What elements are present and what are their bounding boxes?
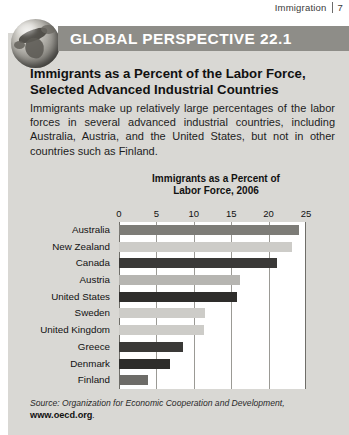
x-axis-tick-labels: 0510152025 bbox=[119, 208, 317, 222]
x-tick-5: 5 bbox=[154, 208, 159, 219]
bar-finland bbox=[119, 375, 148, 385]
chart-title-line2: Labor Force, 2006 bbox=[116, 185, 316, 197]
bar-row bbox=[119, 239, 306, 256]
bar-row bbox=[119, 322, 306, 339]
bar-row bbox=[119, 222, 306, 239]
running-head-page-number: 7 bbox=[338, 2, 343, 13]
x-tick-10: 10 bbox=[189, 208, 200, 219]
bar-new-zealand bbox=[119, 242, 292, 252]
source-note: Source: Organization for Economic Cooper… bbox=[30, 398, 340, 421]
category-label-new-zealand: New Zealand bbox=[8, 239, 115, 256]
running-head-divider bbox=[332, 2, 333, 13]
bar-greece bbox=[119, 342, 183, 352]
category-label-australia: Australia bbox=[8, 222, 115, 239]
banner-bar: GLOBAL PERSPECTIVE 22.1 bbox=[58, 26, 349, 51]
x-tick-25: 25 bbox=[301, 208, 312, 219]
category-label-sweden: Sweden bbox=[8, 305, 115, 322]
bar-chart: 0510152025 AustraliaNew ZealandCanadaAus… bbox=[119, 208, 317, 389]
banner-title: GLOBAL PERSPECTIVE 22.1 bbox=[58, 30, 292, 48]
category-label-greece: Greece bbox=[8, 339, 115, 356]
bar-united-kingdom bbox=[119, 325, 204, 335]
bar-row bbox=[119, 372, 306, 389]
page-title: Immigrants as a Percent of the Labor For… bbox=[30, 66, 335, 97]
bar-denmark bbox=[119, 359, 170, 369]
bar-row bbox=[119, 289, 306, 306]
running-head-title: Immigration bbox=[275, 2, 327, 13]
x-tick-0: 0 bbox=[116, 208, 121, 219]
bar-united-states bbox=[119, 292, 237, 302]
bar-row bbox=[119, 356, 306, 373]
globe-icon bbox=[11, 19, 60, 68]
bar-row bbox=[119, 305, 306, 322]
x-tick-20: 20 bbox=[263, 208, 274, 219]
category-label-austria: Austria bbox=[8, 272, 115, 289]
source-url-suffix: . bbox=[92, 410, 94, 420]
bar-row bbox=[119, 272, 306, 289]
bar-series bbox=[119, 222, 306, 389]
bar-australia bbox=[119, 225, 299, 235]
source-url[interactable]: www.oecd.org bbox=[30, 410, 92, 420]
chart-title-line1: Immigrants as a Percent of bbox=[116, 173, 316, 185]
global-perspective-panel: GLOBAL PERSPECTIVE 22.1 Immigrants as a … bbox=[8, 33, 349, 435]
source-text: Source: Organization for Economic Cooper… bbox=[30, 398, 285, 408]
bar-austria bbox=[119, 275, 240, 285]
x-tick-15: 15 bbox=[226, 208, 237, 219]
description-text: Immigrants make up relatively large perc… bbox=[30, 101, 335, 158]
chart-title: Immigrants as a Percent of Labor Force, … bbox=[116, 173, 316, 197]
category-label-finland: Finland bbox=[8, 372, 115, 389]
category-labels: AustraliaNew ZealandCanadaAustriaUnited … bbox=[8, 222, 115, 389]
bar-sweden bbox=[119, 308, 205, 318]
bar-row bbox=[119, 255, 306, 272]
bar-canada bbox=[119, 258, 277, 268]
running-head: Immigration 7 bbox=[275, 2, 343, 13]
banner: GLOBAL PERSPECTIVE 22.1 bbox=[8, 19, 349, 53]
plot-area bbox=[119, 222, 306, 389]
bar-row bbox=[119, 339, 306, 356]
category-label-united-states: United States bbox=[8, 289, 115, 306]
category-label-united-kingdom: United Kingdom bbox=[8, 322, 115, 339]
category-label-denmark: Denmark bbox=[8, 356, 115, 373]
category-label-canada: Canada bbox=[8, 255, 115, 272]
